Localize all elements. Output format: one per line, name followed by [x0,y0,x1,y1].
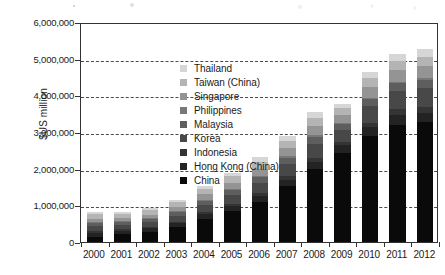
bar-segment[interactable] [362,106,379,122]
bar-segment[interactable] [224,211,241,242]
x-axis-tick-mark [384,242,385,247]
bar-stack[interactable] [142,208,159,242]
bar-segment[interactable] [417,113,434,123]
y-axis-tick-label: 4,000,000 [0,90,74,101]
bar-segment[interactable] [362,136,379,242]
plot-area: ThailandTaiwan (China)SingaporePhilippin… [80,23,438,243]
bar-segment[interactable] [334,115,351,123]
bar-segment[interactable] [417,66,434,78]
bar-segment[interactable] [252,202,269,242]
legend-label: Singapore [194,91,239,102]
legend-label: Philippines [194,105,242,116]
x-axis-tick-mark [164,242,165,247]
legend-item[interactable]: Indonesia [180,146,298,160]
bar-segment[interactable] [114,234,131,242]
bar-segment[interactable] [417,57,434,67]
bar-segment[interactable] [307,137,324,144]
bar-segment[interactable] [389,61,406,71]
bar-segment[interactable] [334,153,351,242]
legend-swatch [180,79,187,86]
legend-swatch [180,93,187,100]
bar-segment[interactable] [389,70,406,82]
bar-segment[interactable] [87,237,104,243]
bar-stack[interactable] [87,212,104,242]
x-axis-tick-mark [219,242,220,247]
legend-swatch [180,177,187,184]
x-axis-tick-mark [356,242,357,247]
x-axis-tick-label: 2000 [80,249,108,260]
legend-label: Hong Kong (China) [194,161,279,172]
bar-segment[interactable] [142,232,159,242]
legend-label: Indonesia [194,147,237,158]
bar-stack[interactable] [417,49,434,242]
chart-figure: $US million 01,000,0002,000,0003,000,000… [0,0,445,275]
legend-label: Thailand [194,63,232,74]
bar-segment[interactable] [307,162,324,169]
bar-stack[interactable] [389,54,406,242]
bar-segment[interactable] [307,118,324,126]
legend-label: China [194,175,220,186]
bar-segment[interactable] [362,99,379,106]
bar-segment[interactable] [417,122,434,242]
bar-segment[interactable] [307,144,324,158]
x-axis-tick-mark [329,242,330,247]
bar-segment[interactable] [389,125,406,242]
bar-stack[interactable] [307,112,324,242]
bar-segment[interactable] [224,195,241,204]
bar-segment[interactable] [417,88,434,107]
x-axis-tick-label: 2004 [190,249,218,260]
x-axis-tick-label: 2011 [383,249,411,260]
x-axis-tick-mark [109,242,110,247]
y-axis-tick-label: 5,000,000 [0,54,74,65]
bar-stack[interactable] [169,200,186,242]
bar-stack[interactable] [362,72,379,242]
x-axis-tick-mark [136,242,137,247]
legend-item[interactable]: Korea [180,131,298,145]
y-axis-tick-label: 2,000,000 [0,164,74,175]
legend-swatch [180,163,187,170]
bar-segment[interactable] [197,205,214,213]
x-axis-tick-label: 2008 [300,249,328,260]
y-axis-tick-mark [75,243,80,244]
x-axis-tick-label: 2006 [245,249,273,260]
bar-stack[interactable] [197,186,214,242]
x-axis-tick-mark [246,242,247,247]
bar-segment[interactable] [169,227,186,242]
legend-label: Korea [194,133,220,144]
bar-segment[interactable] [307,169,324,242]
x-axis-tick-label: 2010 [355,249,383,260]
y-axis-tick-label: 3,000,000 [0,127,74,138]
bar-stack[interactable] [114,212,131,242]
chart-legend: ThailandTaiwan (China)SingaporePhilippin… [180,61,298,188]
bar-segment[interactable] [334,145,351,152]
legend-item[interactable]: Taiwan (China) [180,75,298,89]
bar-segment[interactable] [389,83,406,91]
bar-segment[interactable] [362,78,379,87]
y-axis-tick-label: 1,000,000 [0,200,74,211]
bar-segment[interactable] [334,108,351,115]
bar-stack[interactable] [334,104,351,242]
legend-item[interactable]: Hong Kong (China) [180,160,298,174]
bar-segment[interactable] [334,130,351,142]
legend-item[interactable]: Singapore [180,89,298,103]
x-axis-tick-mark [411,242,412,247]
bar-segment[interactable] [389,54,406,61]
legend-item[interactable]: Philippines [180,103,298,117]
bar-segment[interactable] [362,87,379,97]
legend-item[interactable]: Thailand [180,61,298,75]
bar-segment[interactable] [279,186,296,242]
bar-segment[interactable] [389,115,406,124]
bar-segment[interactable] [389,91,406,109]
x-axis-tick-label: 2005 [218,249,246,260]
legend-item[interactable]: Malaysia [180,117,298,131]
legend-swatch [180,121,187,128]
legend-item[interactable]: China [180,174,298,188]
bar-segment[interactable] [307,126,324,136]
x-axis-tick-mark [81,242,82,247]
bar-segment[interactable] [362,127,379,136]
legend-label: Taiwan (China) [194,77,260,88]
bar-segment[interactable] [417,80,434,88]
bar-segment[interactable] [417,49,434,56]
x-axis-tick-mark [301,242,302,247]
bar-segment[interactable] [197,219,214,242]
